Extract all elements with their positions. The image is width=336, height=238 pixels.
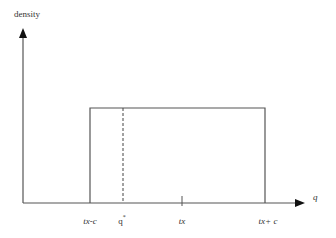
x-axis-arrow-icon (295, 199, 305, 207)
x-axis-label: q (313, 192, 318, 202)
tick-label-right-bound: tx+ c (259, 216, 278, 226)
density-rectangle (90, 108, 265, 203)
y-axis-arrow-icon (19, 28, 27, 38)
tick-label-left-bound: tx-c (83, 216, 97, 226)
tick-label-center: tx (179, 216, 186, 226)
tick-label-q-star: q* (118, 214, 126, 226)
y-axis-label: density (14, 9, 40, 19)
uniform-density-diagram: density q tx-c q* tx tx+ c (0, 0, 336, 238)
